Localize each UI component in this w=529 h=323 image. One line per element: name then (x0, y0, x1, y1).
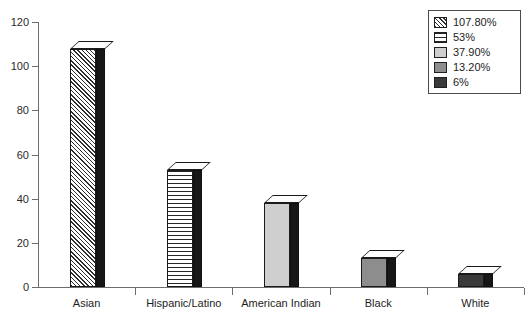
bar-side-face (387, 258, 396, 287)
legend-item: 6% (434, 75, 515, 89)
legend-swatch-icon (434, 77, 447, 88)
bar-front-face (264, 203, 290, 287)
x-axis-category-label: Asian (38, 297, 135, 309)
bar-top-face (70, 41, 114, 49)
y-axis-tick-label: 20 (1, 238, 29, 249)
y-axis-tick-label: 60 (1, 150, 29, 161)
bar-top-face (167, 162, 211, 170)
x-axis-separator (524, 288, 525, 295)
y-axis-tick-label: 40 (1, 194, 29, 205)
x-axis-category-label: American Indian (232, 297, 329, 309)
bar-column (167, 162, 193, 287)
y-axis-tick-label: 80 (1, 105, 29, 116)
legend-swatch-icon (434, 47, 447, 58)
y-axis-tick (32, 66, 39, 67)
bar-top-face (458, 266, 502, 274)
x-axis-category-label: White (427, 297, 524, 309)
bar-column (70, 41, 96, 287)
y-axis-tick (32, 243, 39, 244)
legend-item-label: 6% (453, 77, 469, 88)
bar-side-face (193, 170, 202, 287)
bar-top-face (361, 250, 405, 258)
bar-column (458, 266, 484, 287)
legend-item: 13.20% (434, 60, 515, 74)
legend-swatch-icon (434, 32, 447, 43)
legend-item-label: 37.90% (453, 47, 490, 58)
bar-column (361, 250, 387, 287)
bar-front-face (458, 274, 484, 287)
y-axis-tick-label: 120 (1, 17, 29, 28)
y-axis-tick (32, 22, 39, 23)
x-axis-separator (135, 288, 136, 295)
legend-item-label: 53% (453, 32, 475, 43)
y-axis-tick (32, 110, 39, 111)
x-axis-category-label: Black (330, 297, 427, 309)
legend-item-label: 107.80% (453, 17, 496, 28)
y-axis-tick (32, 199, 39, 200)
x-axis-category-label: Hispanic/Latino (135, 297, 232, 309)
bar-side-face (96, 49, 105, 287)
bar-front-face (167, 170, 193, 287)
x-axis-separator (330, 288, 331, 295)
bar-top-face (264, 195, 308, 203)
x-axis-separator (232, 288, 233, 295)
y-axis-tick-label: 100 (1, 61, 29, 72)
bar-side-face (290, 203, 299, 287)
bar-chart: 020406080100120 AsianHispanic/LatinoAmer… (0, 0, 529, 323)
x-axis-line (38, 287, 524, 288)
legend-item: 37.90% (434, 45, 515, 59)
y-axis-tick-label: 0 (1, 282, 29, 293)
legend-item-label: 13.20% (453, 62, 490, 73)
bar-front-face (361, 258, 387, 287)
legend-item: 53% (434, 30, 515, 44)
legend-item: 107.80% (434, 15, 515, 29)
y-axis-tick (32, 155, 39, 156)
legend-swatch-icon (434, 17, 447, 28)
y-axis-tick (32, 287, 39, 288)
bar-side-face (484, 274, 493, 287)
bar-front-face (70, 49, 96, 287)
bar-column (264, 195, 290, 287)
legend-swatch-icon (434, 62, 447, 73)
x-axis-separator (427, 288, 428, 295)
chart-legend: 107.80%53%37.90%13.20%6% (428, 10, 521, 94)
